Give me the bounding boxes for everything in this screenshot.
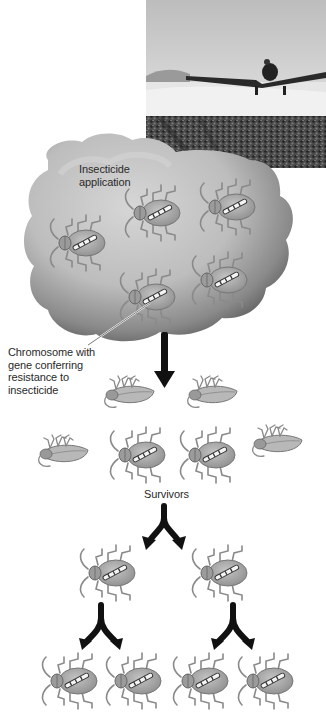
label-line: insecticide (8, 384, 95, 397)
label-line: gene conferring (8, 359, 95, 372)
label-line: Chromosome with (8, 346, 95, 359)
beetle-survivor (181, 427, 235, 483)
chromosome-label: Chromosome with gene conferring resistan… (8, 346, 95, 396)
beetle-survivor (111, 427, 165, 483)
beetle-offspring (239, 653, 293, 709)
branch-arrow-icon (86, 605, 248, 642)
label-line: resistance to (8, 371, 95, 384)
beetle-dead (188, 376, 237, 407)
beetle-offspring (107, 653, 161, 709)
crop-duster-photo (146, 0, 326, 168)
down-arrow-icon (154, 332, 175, 388)
beetle-offspring (174, 653, 228, 709)
survivors-label: Survivors (144, 488, 189, 501)
beetle-dead (105, 376, 154, 407)
beetle-offspring (81, 545, 135, 601)
label-line: application (79, 176, 131, 189)
insecticide-application-label: Insecticide application (79, 163, 131, 188)
beetle-offspring (193, 545, 247, 601)
label-line: Insecticide (79, 163, 131, 176)
branch-arrow-icon (150, 506, 178, 540)
beetle-offspring (43, 653, 97, 709)
beetle-dead (39, 435, 88, 466)
beetle-dead (253, 425, 302, 456)
